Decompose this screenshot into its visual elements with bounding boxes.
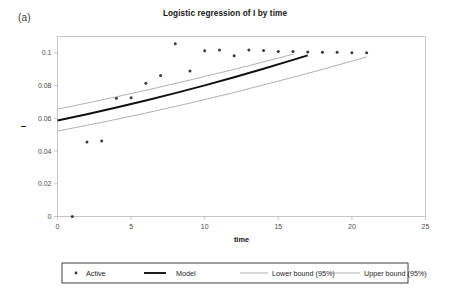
chart-svg: 00.020.040.060.080.1 0510152025 timeI Ac… [0, 0, 450, 295]
data-point [262, 49, 265, 52]
y-tick-label: 0.08 [38, 82, 52, 89]
x-axis-ticks: 0510152025 [56, 217, 430, 230]
data-point [144, 82, 147, 85]
data-series-layer [58, 42, 369, 218]
data-point [174, 42, 177, 45]
series-line-model [58, 55, 308, 120]
series-line-upper-bound-95- [58, 54, 294, 109]
data-point [188, 70, 191, 73]
x-tick-label: 5 [129, 223, 133, 230]
y-tick-label: 0.04 [38, 148, 52, 155]
data-point [292, 50, 295, 53]
y-axis-title: I [19, 125, 28, 127]
x-axis-title: time [234, 235, 249, 244]
y-tick-label: 0 [48, 213, 52, 220]
data-point [277, 50, 280, 53]
x-tick-label: 25 [422, 223, 430, 230]
data-point [336, 51, 339, 54]
x-tick-label: 20 [348, 223, 356, 230]
y-tick-label: 0.06 [38, 115, 52, 122]
legend-label[interactable]: Model [176, 269, 196, 278]
chart-legend: ActiveModelLower bound (95%)Upper bound … [62, 263, 427, 283]
series-line-lower-bound-95- [58, 57, 367, 131]
plot-frame [58, 37, 426, 217]
x-tick-label: 0 [56, 223, 60, 230]
data-point [71, 215, 74, 218]
axis-titles: timeI [19, 125, 249, 243]
data-point [159, 74, 162, 77]
legend-label[interactable]: Active [86, 269, 106, 278]
y-axis-ticks: 00.020.040.060.080.1 [38, 49, 58, 220]
data-point [306, 51, 309, 54]
data-point [218, 49, 221, 52]
data-point [365, 51, 368, 54]
data-point [247, 49, 250, 52]
legend-label[interactable]: Lower bound (95%) [272, 269, 335, 278]
data-point [350, 51, 353, 54]
legend-label[interactable]: Upper bound (95%) [364, 269, 427, 278]
figure-container: (a) Logistic regression of I by time 00.… [0, 0, 450, 295]
data-point [85, 141, 88, 144]
data-point [100, 139, 103, 142]
y-tick-label: 0.02 [38, 180, 52, 187]
x-tick-label: 10 [201, 223, 209, 230]
x-tick-label: 15 [274, 223, 282, 230]
data-point [233, 54, 236, 57]
data-point [203, 49, 206, 52]
legend-marker-dot [75, 272, 78, 275]
data-point [321, 51, 324, 54]
y-tick-label: 0.1 [42, 49, 52, 56]
plot-area-border [58, 37, 426, 217]
data-point [130, 96, 133, 99]
chart-title: Logistic regression of I by time [0, 9, 450, 18]
